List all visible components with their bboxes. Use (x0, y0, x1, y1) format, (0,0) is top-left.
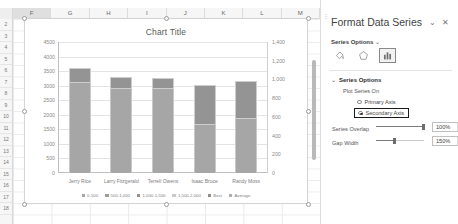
series-options-dropdown-label: Series Options (331, 39, 373, 45)
legend-swatch (82, 194, 86, 198)
chevron-down-icon[interactable]: ⌄ (426, 18, 439, 27)
legend-item[interactable]: 500-1,000 (105, 193, 130, 198)
primary-axis-radio-row[interactable]: Primary Axis (357, 99, 396, 105)
chart-handle-mr[interactable] (306, 109, 311, 114)
pane-tool-row[interactable] (331, 48, 396, 63)
chart-title[interactable]: Chart Title (25, 27, 307, 37)
category-label: Jerry Rice (69, 178, 92, 184)
row-header[interactable]: 6 (0, 65, 12, 77)
fill-icon[interactable] (331, 48, 348, 63)
bar-group[interactable]: Jerry Rice (59, 42, 101, 173)
bar-group[interactable]: Randy Moss (225, 42, 267, 173)
sheet-vertical-scrollbar[interactable] (312, 60, 316, 160)
row-header[interactable]: 13 (0, 146, 12, 158)
series-options-icon[interactable] (379, 48, 396, 63)
primary-axis-tick: 500 (46, 155, 55, 161)
row-header[interactable]: 17 (0, 192, 12, 204)
chart-object[interactable]: Chart Title 0500100015002000250030003500… (24, 18, 308, 204)
gap-width-input[interactable]: 150% ▲ ▼ (432, 136, 458, 146)
pane-header: Format Data Series ⌄ ✕ (331, 16, 452, 28)
row-header[interactable]: 12 (0, 134, 12, 146)
primary-axis-radio[interactable] (357, 100, 362, 105)
row-header[interactable]: 7 (0, 77, 12, 89)
bar-group[interactable]: Terrell Owens (142, 42, 184, 173)
row-header[interactable]: 2 (0, 19, 12, 31)
gap-width-label: Gap Width (332, 140, 358, 146)
row-header[interactable]: 16 (0, 180, 12, 192)
bar-group[interactable]: Larry Fitzgerald (101, 42, 143, 173)
bar-group[interactable]: Isaac Bruce (184, 42, 226, 173)
chart-handle-tr[interactable] (306, 16, 311, 21)
legend-item[interactable]: Average (229, 193, 250, 198)
bar-primary[interactable] (152, 78, 174, 173)
primary-axis-label: Primary Axis (365, 99, 396, 105)
bar-primary[interactable] (69, 68, 91, 173)
chart-legend[interactable]: 0-500500-1,0001,000-1,5001,500-2,000Best… (25, 193, 307, 198)
row-header[interactable]: 15 (0, 169, 12, 181)
bar-secondary[interactable] (69, 68, 91, 83)
chart-handle-ml[interactable] (22, 109, 27, 114)
bar-secondary[interactable] (110, 77, 132, 89)
close-icon[interactable]: ✕ (439, 18, 452, 27)
row-header[interactable]: 10 (0, 111, 12, 123)
chevron-down-icon: ⌄ (331, 77, 336, 83)
secondary-axis-tick: 600 (272, 114, 281, 120)
row-header[interactable]: 14 (0, 157, 12, 169)
bar-secondary[interactable] (152, 78, 174, 89)
bar-secondary[interactable] (235, 81, 257, 118)
series-options-dropdown[interactable]: Series Options⌄ (331, 38, 380, 45)
secondary-axis-tick: 800 (272, 95, 281, 101)
primary-axis-tick: 0 (52, 170, 55, 176)
chart-handle-br[interactable] (306, 202, 311, 207)
row-header[interactable]: 5 (0, 54, 12, 66)
row-header[interactable]: 18 (0, 203, 12, 215)
slider-knob[interactable] (422, 124, 425, 130)
chart-handle-bl[interactable] (22, 202, 27, 207)
row-header[interactable]: 8 (0, 88, 12, 100)
secondary-axis-radio-row[interactable]: Secondary Axis (358, 110, 404, 116)
effects-icon[interactable] (355, 48, 372, 63)
series-overlap-input[interactable]: 100% ▲ ▼ (432, 122, 458, 132)
spreadsheet-grid[interactable]: F G H I J K L M 2 3 4 5 6 7 8 9 10 11 12… (0, 0, 320, 224)
chart-handle-tl[interactable] (22, 16, 27, 21)
legend-label: Average (234, 193, 250, 198)
legend-item[interactable]: 0-500 (82, 193, 99, 198)
slider-track[interactable] (376, 126, 424, 127)
legend-label: 1,000-1,500 (142, 193, 165, 198)
row-header[interactable]: 11 (0, 123, 12, 135)
pane-grip-icon[interactable]: ⋮ (323, 12, 329, 19)
bar-series-group[interactable]: Jerry RiceLarry FitzgeraldTerrell OwensI… (59, 42, 267, 173)
legend-swatch (208, 194, 212, 198)
row-header[interactable]: 4 (0, 42, 12, 54)
slider-knob[interactable] (393, 138, 396, 144)
secondary-axis-radio[interactable] (358, 111, 363, 116)
select-all-corner[interactable] (0, 8, 13, 19)
series-overlap-slider[interactable] (376, 122, 424, 131)
row-header[interactable]: 3 (0, 31, 12, 43)
secondary-value-axis[interactable] (267, 42, 268, 173)
row-header[interactable]: 9 (0, 100, 12, 112)
legend-item[interactable]: 1,000-1,500 (137, 193, 165, 198)
legend-swatch (172, 194, 176, 198)
legend-swatch (105, 194, 109, 198)
series-overlap-value[interactable]: 100% (433, 124, 457, 130)
series-options-section-header[interactable]: ⌄Series Options (331, 76, 381, 83)
slider-fill (376, 126, 424, 127)
slider-track[interactable] (376, 140, 424, 141)
legend-swatch (229, 194, 233, 198)
chevron-down-icon: ⌄ (375, 39, 380, 45)
bar-primary[interactable] (110, 77, 132, 173)
chart-handle-bc[interactable] (164, 202, 169, 207)
bar-secondary[interactable] (194, 85, 216, 125)
row-header-column[interactable]: 2 3 4 5 6 7 8 9 10 11 12 13 14 15 16 17 … (0, 19, 13, 224)
gap-width-slider[interactable] (376, 136, 424, 145)
gap-width-value[interactable]: 150% (433, 138, 457, 144)
chart-handle-tc[interactable] (164, 16, 169, 21)
format-data-series-pane[interactable]: ⋮ Format Data Series ⌄ ✕ Series Options⌄ (320, 0, 458, 224)
legend-item[interactable]: 1,500-2,000 (172, 193, 200, 198)
secondary-axis-tick: 1,400 (272, 39, 285, 45)
legend-item[interactable]: Best (208, 193, 222, 198)
plot-area[interactable]: 050010001500200025003000350040004500 020… (59, 42, 267, 173)
primary-axis-tick: 3500 (43, 68, 55, 74)
category-label: Isaac Bruce (191, 178, 217, 184)
